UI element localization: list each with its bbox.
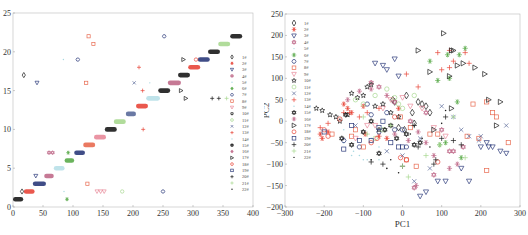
y-tick-label: 10 bbox=[3, 125, 11, 134]
dot-marker-icon bbox=[370, 159, 372, 161]
legend-label: 15# bbox=[242, 143, 250, 148]
cluster-2# bbox=[24, 189, 35, 194]
legend-label: 5# bbox=[242, 80, 247, 85]
legend-label: 8# bbox=[242, 99, 247, 104]
y-tick-label: 50 bbox=[275, 96, 283, 105]
legend-label: 16# bbox=[304, 117, 312, 122]
legend-label: 6# bbox=[242, 86, 247, 91]
dot-marker-icon bbox=[231, 189, 232, 190]
legend-label: 13# bbox=[304, 97, 312, 102]
legend-label: 9# bbox=[242, 105, 247, 110]
cluster-4# bbox=[44, 174, 54, 179]
legend-label: 14# bbox=[242, 137, 250, 142]
dot-marker-icon bbox=[343, 129, 345, 131]
dot-marker-icon bbox=[63, 59, 64, 60]
y-tick-label: −50 bbox=[270, 139, 283, 148]
legend-label: 17# bbox=[242, 155, 250, 160]
y-tick-label: −150 bbox=[266, 182, 283, 191]
y-tick-label: 5 bbox=[7, 164, 11, 173]
x-tick-label: 300 bbox=[514, 209, 526, 218]
cluster-9# bbox=[94, 135, 106, 140]
cluster-22# bbox=[230, 34, 242, 39]
legend-label: 4# bbox=[242, 74, 247, 79]
x-tick-label: 300 bbox=[187, 209, 199, 218]
legend-label: 12# bbox=[242, 124, 250, 129]
cluster-13# bbox=[136, 104, 148, 109]
cluster-1# bbox=[13, 197, 23, 202]
legend-label: 7# bbox=[242, 92, 247, 97]
x-axis-label: PC1 bbox=[395, 219, 411, 229]
y-tick-label: 100 bbox=[271, 74, 283, 83]
dot-marker-icon bbox=[363, 159, 365, 161]
legend-label: 10# bbox=[304, 78, 312, 83]
dot-marker-icon bbox=[366, 159, 368, 161]
legend-label: 7# bbox=[304, 59, 309, 64]
y-tick-label: 20 bbox=[3, 48, 11, 57]
legend-label: 1# bbox=[304, 21, 309, 26]
cluster-14# bbox=[146, 96, 160, 101]
dot-marker-icon bbox=[378, 159, 380, 161]
legend-label: 13# bbox=[242, 130, 250, 135]
legend-label: 21# bbox=[304, 149, 312, 154]
x-tick-label: 0 bbox=[11, 209, 15, 218]
legend-label: 6# bbox=[304, 53, 309, 58]
legend-label: 17# bbox=[304, 123, 312, 128]
dot-marker-icon bbox=[390, 159, 392, 161]
legend-label: 19# bbox=[242, 168, 250, 173]
dot-marker-icon bbox=[293, 157, 294, 158]
legend-label: 16# bbox=[242, 149, 250, 154]
cluster-21# bbox=[218, 42, 230, 47]
dot-marker-icon bbox=[441, 123, 443, 125]
legend-label: 3# bbox=[304, 33, 309, 38]
legend-label: 11# bbox=[304, 85, 311, 90]
legend-label: 12# bbox=[304, 91, 312, 96]
x-tick-label: 250 bbox=[157, 209, 169, 218]
dot-marker-icon bbox=[445, 110, 447, 112]
y-tick-label: 200 bbox=[271, 31, 283, 40]
legend-label: 1# bbox=[242, 55, 247, 60]
dot-marker-icon bbox=[293, 106, 294, 107]
x-tick-label: 200 bbox=[475, 209, 487, 218]
legend-label: 10# bbox=[242, 111, 250, 116]
x-tick-label: 150 bbox=[97, 209, 109, 218]
cluster-11# bbox=[114, 119, 126, 124]
x-tick-label: −100 bbox=[355, 209, 372, 218]
cluster-17# bbox=[178, 73, 190, 78]
legend-label: 2# bbox=[304, 27, 309, 32]
dot-marker-icon bbox=[421, 138, 423, 140]
dot-marker-icon bbox=[351, 155, 353, 157]
dot-marker-icon bbox=[429, 146, 431, 148]
cluster-6# bbox=[65, 158, 75, 163]
cluster-20# bbox=[208, 50, 220, 55]
dot-marker-icon bbox=[378, 146, 380, 148]
y-tick-label: 0 bbox=[279, 117, 283, 126]
legend-label: 4# bbox=[304, 40, 309, 45]
dot-marker-icon bbox=[231, 82, 232, 83]
cluster-15# bbox=[158, 88, 170, 93]
y-tick-label: 0 bbox=[7, 203, 11, 212]
classification-scatter-chart: 05010015020025030035040005101520251#2#3#… bbox=[0, 0, 264, 235]
cluster-16# bbox=[168, 81, 181, 86]
y-tick-label: 25 bbox=[3, 9, 11, 18]
legend-label: 18# bbox=[304, 129, 312, 134]
cluster-8# bbox=[83, 143, 95, 148]
cluster-7# bbox=[74, 150, 85, 155]
legend-label: 15# bbox=[304, 110, 312, 115]
cluster-18# bbox=[188, 65, 200, 70]
dot-marker-icon bbox=[353, 150, 355, 152]
legend-label: 22# bbox=[242, 187, 250, 192]
x-tick-label: 400 bbox=[247, 209, 259, 218]
x-tick-label: 100 bbox=[436, 209, 448, 218]
y-axis-label: PC2 bbox=[264, 103, 271, 119]
legend-label: 2# bbox=[242, 61, 247, 66]
legend-label: 11# bbox=[242, 118, 249, 123]
dot-marker-icon bbox=[398, 172, 400, 174]
y-tick-label: −200 bbox=[266, 203, 283, 212]
dot-marker-icon bbox=[231, 138, 232, 139]
x-tick-label: −200 bbox=[316, 209, 333, 218]
x-tick-label: 0 bbox=[401, 209, 405, 218]
pca-scatter-chart: −300−200−1000100200300−200−150−100−50050… bbox=[264, 0, 528, 235]
legend-label: 18# bbox=[242, 162, 250, 167]
legend-label: 20# bbox=[242, 174, 250, 179]
legend-label: 3# bbox=[242, 67, 247, 72]
